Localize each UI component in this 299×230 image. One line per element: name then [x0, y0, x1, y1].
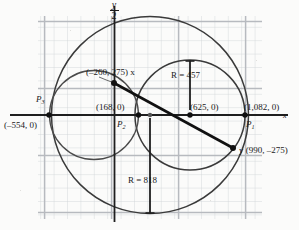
label-p3-subscript: 3 [42, 99, 45, 105]
diagram-svg [0, 0, 299, 230]
point-center-818 [148, 113, 152, 117]
point-y [230, 145, 236, 151]
y-axis-label-numerator: y [104, 0, 124, 10]
label-radius-818: R = 818 [128, 176, 157, 185]
paper-speck [20, 190, 21, 191]
paper-speck [256, 60, 257, 61]
point-p1 [242, 112, 247, 117]
label-p2-subscript: 2 [123, 124, 126, 130]
point-p2 [136, 112, 141, 117]
point-x [111, 80, 117, 86]
point-p3 [46, 112, 51, 117]
y-axis-label-denominator: 2 [104, 11, 124, 21]
y-axis-label: y 2 [104, 0, 124, 21]
point-center-457 [187, 112, 192, 117]
label-p1: P1 [246, 120, 255, 130]
label-point-y: y (990, –275) [239, 146, 288, 155]
label-p1-subscript: 1 [252, 124, 255, 130]
label-p2: P2 [117, 120, 126, 130]
label-p1-coord: (1,082, 0) [244, 103, 279, 112]
label-center-625: (625, 0) [190, 103, 219, 112]
label-p3-coord: (–554, 0) [4, 121, 37, 130]
label-point-x: (–260, 275) x [86, 68, 135, 77]
paper-speck [210, 200, 211, 201]
label-p3: P3 [36, 95, 45, 105]
paper-speck [70, 30, 71, 31]
label-p2-coord: (168, 0) [96, 103, 125, 112]
figure-canvas: y 2 x P3 (–554, 0) (168, 0) P2 (625, 0) … [0, 0, 299, 230]
x-axis-label: x [283, 112, 287, 120]
label-radius-457: R = 457 [171, 71, 200, 80]
